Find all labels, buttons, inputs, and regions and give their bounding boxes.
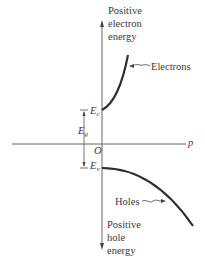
- label-line: energy: [108, 30, 142, 43]
- label-line: electron: [108, 17, 142, 30]
- up-arrow-icon: [100, 20, 104, 27]
- valence-level-label: Ev: [90, 159, 100, 176]
- holes-label: Holes: [115, 195, 140, 208]
- holes-leader-arrow-icon: [161, 199, 166, 203]
- gap-up-arrow-icon: [83, 111, 86, 116]
- electrons-leader-arrow-icon: [129, 64, 134, 68]
- electron-curve: [102, 55, 128, 110]
- label-line: Positive: [107, 218, 141, 231]
- label-line: hole: [107, 231, 141, 244]
- electrons-label: Electrons: [151, 60, 191, 73]
- gap-down-arrow-icon: [83, 162, 86, 167]
- holes-leader-icon: [142, 200, 161, 202]
- momentum-axis-label: p: [188, 136, 193, 149]
- level-subscript: g: [84, 130, 88, 138]
- level-subscript: v: [96, 165, 99, 173]
- down-arrow-icon: [100, 243, 104, 250]
- level-subscript: c: [96, 110, 99, 118]
- label-line: energy: [107, 244, 141, 257]
- origin-label: O: [94, 144, 102, 157]
- positive-electron-energy-label: Positive electron energy: [108, 4, 142, 43]
- gap-label: Eg: [78, 124, 88, 141]
- band-diagram: [0, 0, 205, 264]
- conduction-level-label: Ec: [90, 104, 100, 121]
- positive-hole-energy-label: Positive hole energy: [107, 218, 141, 257]
- label-line: Positive: [108, 4, 142, 17]
